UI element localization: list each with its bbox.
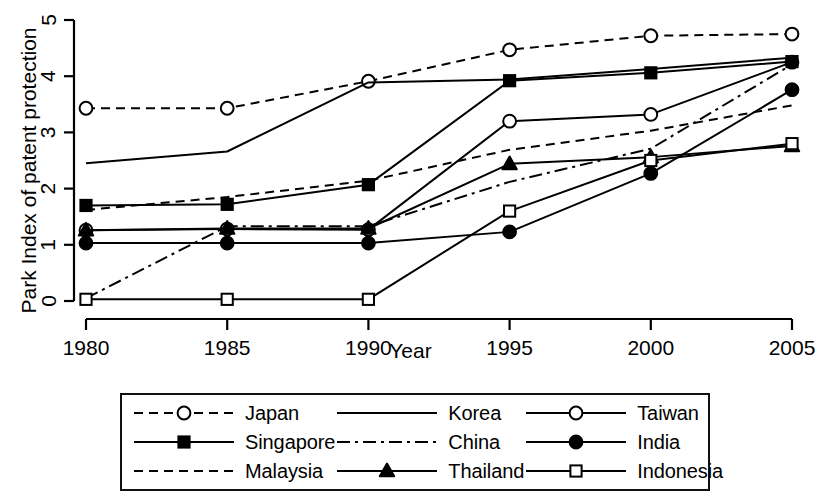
series-taiwan	[80, 56, 799, 237]
legend-label: Singapore	[245, 432, 335, 452]
legend-key-open-circle-icon	[524, 403, 628, 423]
x-axis-title: Year	[0, 340, 821, 361]
data-point	[363, 294, 374, 305]
legend-item-korea[interactable]: Korea	[335, 403, 524, 423]
legend-key-open-square-icon	[524, 461, 628, 481]
legend-marker	[178, 407, 191, 420]
series-line	[86, 146, 792, 230]
legend-key-filled-circle-icon	[524, 432, 628, 452]
y-axis-tick-label: 2	[37, 183, 60, 195]
series-layer	[79, 28, 799, 305]
data-point	[786, 28, 799, 41]
data-point	[786, 83, 799, 96]
legend-key-solid-line-icon	[335, 403, 439, 423]
legend-marker	[380, 463, 394, 476]
data-point	[503, 225, 516, 238]
legend-label: Indonesia	[637, 461, 723, 481]
legend-item-china[interactable]: China	[335, 432, 524, 452]
data-point	[786, 138, 797, 149]
series-korea	[86, 58, 792, 164]
data-point	[644, 167, 657, 180]
series-singapore	[80, 56, 797, 211]
data-point	[221, 237, 234, 250]
legend-item-indonesia[interactable]: Indonesia	[524, 461, 723, 481]
legend-label: Japan	[245, 403, 299, 423]
legend-label: Korea	[448, 403, 501, 423]
series-indonesia	[80, 138, 797, 305]
y-axis-tick-label: 1	[37, 239, 60, 251]
plot-area: 012345198019851990199520002005	[0, 0, 821, 375]
legend-item-taiwan[interactable]: Taiwan	[524, 403, 723, 423]
data-point	[80, 294, 91, 305]
legend-label: Thailand	[448, 461, 524, 481]
series-line	[86, 144, 792, 300]
legend-label: Taiwan	[637, 403, 699, 423]
y-axis-tick-label: 5	[37, 14, 60, 26]
legend-item-singapore[interactable]: Singapore	[132, 432, 335, 452]
y-axis-tick-label: 4	[37, 70, 60, 82]
legend-marker	[570, 407, 583, 420]
data-point	[644, 29, 657, 42]
y-axis-title: Park Index of patent protection	[18, 11, 39, 331]
series-line	[86, 62, 792, 206]
legend-marker	[178, 436, 189, 447]
legend-item-thailand[interactable]: Thailand	[335, 461, 524, 481]
legend-label: India	[637, 432, 680, 452]
data-point	[221, 102, 234, 115]
legend-key-filled-square-icon	[132, 432, 236, 452]
series-china	[86, 64, 792, 298]
legend-key-dash-dot-line-icon	[335, 432, 439, 452]
data-point	[644, 108, 657, 121]
data-point	[362, 237, 375, 250]
series-line	[86, 105, 792, 210]
legend-marker	[570, 436, 583, 449]
series-india	[80, 83, 799, 249]
series-japan	[80, 28, 799, 115]
data-point	[80, 237, 93, 250]
data-point	[504, 75, 515, 86]
series-line	[86, 34, 792, 108]
y-axis-tick-label: 0	[37, 295, 60, 307]
legend-item-japan[interactable]: Japan	[132, 403, 335, 423]
data-point	[503, 43, 516, 56]
legend-key-dashed-line-icon	[132, 461, 236, 481]
line-chart: 012345198019851990199520002005	[0, 0, 821, 375]
series-line	[86, 90, 792, 243]
y-axis-tick-label: 3	[37, 127, 60, 139]
data-point	[222, 199, 233, 210]
data-point	[504, 205, 515, 216]
data-point	[503, 115, 516, 128]
legend-item-malaysia[interactable]: Malaysia	[132, 461, 335, 481]
legend-item-india[interactable]: India	[524, 432, 723, 452]
legend-grid: JapanKoreaTaiwanSingaporeChinaIndiaMalay…	[122, 395, 708, 489]
data-point	[80, 102, 93, 115]
legend-marker	[571, 465, 582, 476]
series-line	[86, 58, 792, 164]
data-point	[645, 155, 656, 166]
legend-key-filled-triangle-icon	[335, 461, 439, 481]
data-point	[222, 294, 233, 305]
series-line	[86, 64, 792, 298]
series-malaysia	[86, 105, 792, 210]
legend: JapanKoreaTaiwanSingaporeChinaIndiaMalay…	[120, 393, 710, 491]
legend-label: China	[448, 432, 500, 452]
legend-label: Malaysia	[245, 461, 323, 481]
data-point	[362, 75, 375, 88]
legend-key-open-circle-icon	[132, 403, 236, 423]
figure: 012345198019851990199520002005 Year Park…	[0, 0, 821, 499]
series-thailand	[79, 138, 799, 235]
data-point	[645, 67, 656, 78]
